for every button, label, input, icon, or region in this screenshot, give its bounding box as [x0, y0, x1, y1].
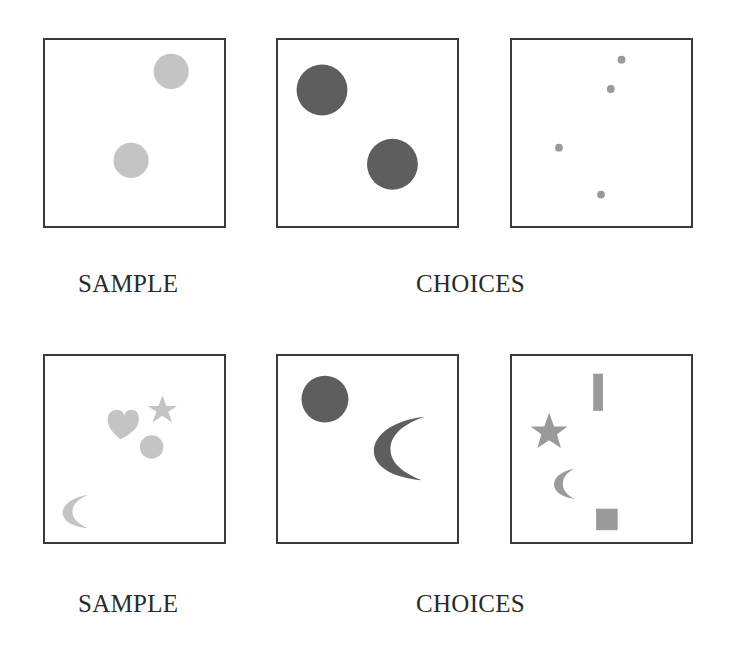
- circle-shape: [154, 54, 189, 89]
- row1-choices-label: CHOICES: [416, 270, 525, 298]
- row1-sample-label: SAMPLE: [78, 270, 178, 298]
- dot-shape: [597, 191, 605, 199]
- row2-sample-panel: [43, 354, 226, 544]
- row1-choice-panel-1[interactable]: [276, 38, 459, 228]
- row1-choice-panel-2[interactable]: [510, 38, 693, 228]
- circle-and-crescent: [278, 356, 457, 542]
- circle-shape: [140, 435, 163, 458]
- row2-choice-panel-2[interactable]: [510, 354, 693, 544]
- crescent-shape: [554, 469, 575, 499]
- circle-shape: [113, 143, 148, 178]
- dot-shape: [607, 85, 615, 93]
- two-dark-circles: [278, 40, 457, 226]
- square-shape: [596, 509, 618, 531]
- circle-shape: [367, 139, 418, 190]
- row2-sample-label: SAMPLE: [78, 590, 178, 618]
- circle-shape: [297, 65, 348, 116]
- dot-shape: [555, 144, 563, 152]
- crescent-shape: [63, 495, 88, 528]
- crescent-shape: [374, 417, 425, 481]
- row1-sample-panel: [43, 38, 226, 228]
- circle-shape: [301, 376, 348, 423]
- row2-choices-label: CHOICES: [416, 590, 525, 618]
- bar-star-crescent-square: [512, 356, 691, 542]
- star-shape: [148, 395, 177, 422]
- mixed-light-shapes: [45, 356, 224, 542]
- star-shape: [531, 413, 568, 448]
- bar-shape: [593, 374, 603, 411]
- heart-shape: [108, 410, 139, 439]
- row2-choice-panel-1[interactable]: [276, 354, 459, 544]
- dot-shape: [618, 56, 626, 64]
- four-small-dots: [512, 40, 691, 226]
- two-light-circles: [45, 40, 224, 226]
